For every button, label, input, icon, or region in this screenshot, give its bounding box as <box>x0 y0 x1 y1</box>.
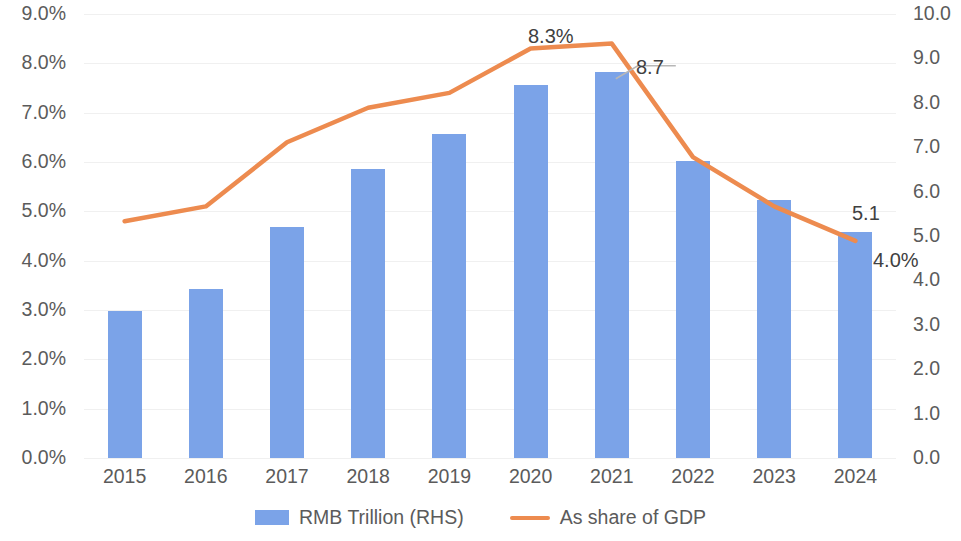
left-axis-tick: 1.0% <box>22 399 66 419</box>
legend: RMB Trillion (RHS) As share of GDP <box>0 508 961 528</box>
left-axis: 0.0%1.0%2.0%3.0%4.0%5.0%6.0%7.0%8.0%9.0% <box>0 0 66 468</box>
gdp-share-line <box>125 44 856 241</box>
category-label-2020: 2020 <box>509 462 552 490</box>
line-series <box>84 14 896 458</box>
legend-item-share-of-gdp[interactable]: As share of GDP <box>510 508 706 528</box>
category-label-2018: 2018 <box>346 462 389 490</box>
line-swatch-icon <box>510 516 550 520</box>
category-label-2024: 2024 <box>834 462 877 490</box>
gridline <box>84 458 896 459</box>
legend-label-rmb-trillion: RMB Trillion (RHS) <box>299 508 464 528</box>
left-axis-tick: 8.0% <box>22 54 66 74</box>
category-label-2019: 2019 <box>428 462 471 490</box>
category-label-2021: 2021 <box>590 462 633 490</box>
right-axis-tick: 0.0 <box>913 448 940 468</box>
legend-item-rmb-trillion[interactable]: RMB Trillion (RHS) <box>255 508 464 528</box>
category-label-2022: 2022 <box>671 462 714 490</box>
left-axis-tick: 9.0% <box>22 4 66 24</box>
category-label-2017: 2017 <box>265 462 308 490</box>
right-axis-tick: 3.0 <box>913 315 940 335</box>
right-axis-tick: 1.0 <box>913 404 940 424</box>
legend-label-share-of-gdp: As share of GDP <box>560 508 706 528</box>
left-axis-tick: 6.0% <box>22 152 66 172</box>
annotation-end-share: 4.0% <box>873 250 919 270</box>
category-label-2015: 2015 <box>103 462 146 490</box>
chart-container: 0.0%1.0%2.0%3.0%4.0%5.0%6.0%7.0%8.0%9.0%… <box>0 0 961 541</box>
right-axis-tick: 10.0 <box>913 4 951 24</box>
left-axis-tick: 4.0% <box>22 251 66 271</box>
left-axis-tick: 3.0% <box>22 300 66 320</box>
category-label-2016: 2016 <box>184 462 227 490</box>
plot-area <box>84 14 896 458</box>
left-axis-tick: 0.0% <box>22 448 66 468</box>
right-axis-tick: 5.0 <box>913 226 940 246</box>
category-label-2023: 2023 <box>752 462 795 490</box>
annotation-bar-2024: 5.1 <box>852 203 880 223</box>
bar-swatch-icon <box>255 510 289 525</box>
right-axis-tick: 7.0 <box>913 137 940 157</box>
annotation-peak-share: 8.3% <box>528 26 574 46</box>
category-axis: 2015201620172018201920202021202220232024 <box>84 462 896 496</box>
left-axis-tick: 7.0% <box>22 103 66 123</box>
annotation-bar-2021: 8.7 <box>636 57 664 77</box>
right-axis-tick: 8.0 <box>913 93 940 113</box>
left-axis-tick: 2.0% <box>22 350 66 370</box>
left-axis-tick: 5.0% <box>22 202 66 222</box>
right-axis-tick: 6.0 <box>913 182 940 202</box>
right-axis-tick: 9.0 <box>913 49 940 69</box>
right-axis-tick: 2.0 <box>913 359 940 379</box>
right-axis-tick: 4.0 <box>913 271 940 291</box>
right-axis: 0.01.02.03.04.05.06.07.08.09.010.0 <box>895 0 961 468</box>
